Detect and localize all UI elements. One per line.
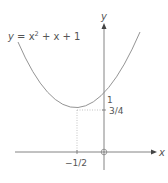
vertex-x-label: −1/2 — [65, 158, 87, 168]
vertex-y-label: 3/4 — [109, 106, 124, 116]
x-axis-arrow-icon — [151, 150, 157, 155]
y-axis-arrow-icon — [102, 23, 107, 29]
parabola-curve — [18, 32, 140, 108]
equation-label: y = x2 + x + 1 — [7, 30, 80, 42]
y-intercept-label: 1 — [107, 95, 113, 105]
x-axis-label: x — [158, 147, 165, 158]
parabola-diagram: y = x2 + x + 1 y x 1 3/4 −1/2 — [0, 0, 168, 183]
y-axis-label: y — [100, 11, 108, 22]
